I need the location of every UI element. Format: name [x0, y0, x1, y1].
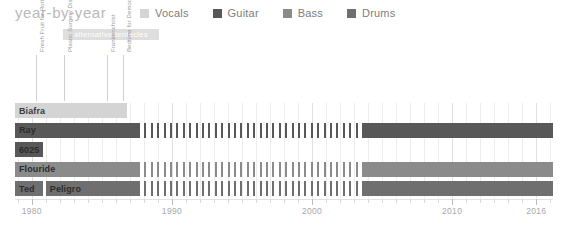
legend-swatch-drums [347, 9, 356, 18]
timeline-segment-label: Flouride [15, 162, 55, 177]
legend-swatch-vocals [140, 9, 149, 18]
axis-tick [74, 199, 75, 203]
axis-tick [256, 199, 257, 203]
axis-tick [508, 199, 509, 203]
timeline-segment[interactable] [362, 162, 553, 177]
axis-tick [452, 199, 453, 205]
album-label: Plastic Surgery Disasters [67, 0, 74, 52]
axis-tick [284, 199, 285, 203]
timeline-row-ted-peligro[interactable]: TedPeligro [15, 181, 553, 196]
axis-tick [102, 199, 103, 203]
axis-tick [424, 199, 425, 203]
axis-tick [354, 199, 355, 203]
album-marker-stem [36, 55, 37, 101]
timeline-row-6025[interactable]: 6025 [15, 142, 553, 157]
album-label: Frankenchrist [110, 14, 117, 52]
axis-tick [368, 199, 369, 203]
axis-tick [144, 199, 145, 203]
chart-legend: VocalsGuitarBassDrums [140, 7, 419, 19]
axis-tick [270, 199, 271, 203]
axis-tick [480, 199, 481, 203]
axis-tick [32, 199, 33, 205]
legend-swatch-bass [283, 9, 292, 18]
legend-label: Bass [298, 7, 323, 19]
axis-tick [382, 199, 383, 203]
axis-tick [116, 199, 117, 203]
timeline-segment[interactable] [138, 181, 362, 196]
axis-tick [60, 199, 61, 203]
timeline-segment[interactable] [138, 162, 362, 177]
axis-tick-label: 2000 [302, 206, 322, 216]
timeline-segment-label: Ray [15, 123, 36, 138]
axis-tick [228, 199, 229, 203]
axis-tick [200, 199, 201, 203]
axis-tick [410, 199, 411, 203]
axis-tick [522, 199, 523, 203]
timeline-segment[interactable] [138, 123, 362, 138]
timeline-row-ray[interactable]: Ray [15, 123, 553, 138]
x-axis: 19801990200020102016 [15, 199, 553, 225]
timeline-segment-label: 6025 [15, 142, 39, 157]
timeline-segment[interactable] [362, 181, 553, 196]
legend-label: Guitar [228, 7, 259, 19]
axis-tick-label: 2010 [442, 206, 462, 216]
axis-tick-label: 2016 [526, 206, 546, 216]
album-marker-stem [107, 55, 108, 101]
page-title: year-by-year [15, 4, 106, 21]
axis-tick [130, 199, 131, 203]
axis-tick [242, 199, 243, 203]
timeline-segment[interactable] [362, 123, 553, 138]
legend-label: Vocals [155, 7, 189, 19]
album-label: Fresh Fruit for Rotting Vegetables [39, 0, 46, 52]
axis-tick [172, 199, 173, 205]
legend-item-guitar[interactable]: Guitar [213, 7, 259, 19]
axis-tick-label: 1990 [162, 206, 182, 216]
axis-tick [88, 199, 89, 203]
album-marker-stem [64, 55, 65, 101]
axis-tick [494, 199, 495, 203]
plot-area: BiafraRay6025FlourideTedPeligro [15, 103, 553, 198]
axis-tick [158, 199, 159, 203]
album-marker-stem [123, 55, 124, 101]
legend-swatch-guitar [213, 9, 222, 18]
axis-tick-label: 1980 [22, 206, 42, 216]
timeline-segment-label: Peligro [46, 181, 81, 196]
axis-tick [438, 199, 439, 203]
timeline-row-flouride[interactable]: Flouride [15, 162, 553, 177]
axis-tick [536, 199, 537, 205]
axis-tick [466, 199, 467, 203]
legend-label: Drums [362, 7, 395, 19]
timeline-segment-label: Ted [15, 181, 35, 196]
axis-tick [312, 199, 313, 205]
chart-header: year-by-year VocalsGuitarBassDrums [0, 0, 561, 26]
axis-tick [18, 199, 19, 203]
legend-item-vocals[interactable]: Vocals [140, 7, 189, 19]
timeline-row-biafra[interactable]: Biafra [15, 103, 553, 118]
legend-item-bass[interactable]: Bass [283, 7, 323, 19]
legend-item-drums[interactable]: Drums [347, 7, 395, 19]
axis-tick [46, 199, 47, 203]
axis-tick [396, 199, 397, 203]
axis-tick [550, 199, 551, 203]
timeline-segment-label: Biafra [15, 103, 45, 118]
axis-tick [326, 199, 327, 203]
axis-tick [214, 199, 215, 203]
axis-tick [186, 199, 187, 203]
chart-root: year-by-year VocalsGuitarBassDrums alter… [0, 0, 561, 232]
axis-tick [298, 199, 299, 203]
axis-tick [340, 199, 341, 203]
album-label: Bedtime for Democracy [126, 0, 133, 52]
